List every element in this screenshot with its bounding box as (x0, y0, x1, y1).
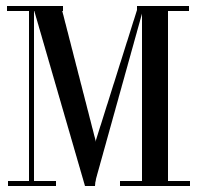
m-glyph-icon (0, 0, 197, 193)
letter-m-logo: M (0, 0, 197, 193)
